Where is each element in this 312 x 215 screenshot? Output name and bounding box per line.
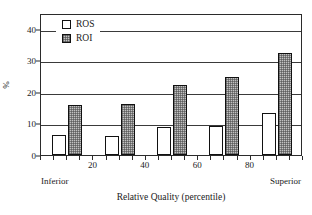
bar-roi-70 (225, 77, 239, 155)
x-tick-label: 40 (140, 161, 149, 170)
legend-label-ros: ROS (76, 20, 94, 30)
legend-item-ros[interactable]: ROS (62, 20, 94, 30)
bar-ros-90 (262, 113, 276, 155)
x-tick-mark (276, 156, 277, 160)
x-tick-mark (66, 156, 67, 160)
bar-ros-50 (157, 127, 171, 155)
x-tick-mark (106, 156, 107, 160)
x-tick-mark (132, 156, 133, 160)
bar-roi-30 (121, 104, 135, 155)
bar-ros-10 (52, 135, 66, 155)
x-tick-mark (40, 156, 41, 160)
legend-label-roi: ROI (76, 34, 92, 44)
x-tick-mark (263, 156, 264, 160)
x-axis-title: Relative Quality (percentile) (40, 192, 302, 202)
x-tick-mark (171, 156, 172, 160)
x-tick-mark (289, 156, 290, 160)
x-tick-mark (184, 156, 185, 160)
x-tick-mark (158, 156, 159, 160)
y-axis: % 010203040 (0, 14, 40, 156)
x-tick-mark (119, 156, 120, 160)
bar-chart: % 010203040 ROS ROI 20406080 Inferior Su… (0, 0, 312, 215)
x-tick-mark (79, 156, 80, 160)
bar-roi-90 (278, 53, 292, 155)
y-tick-label: 10 (27, 120, 36, 129)
x-tick-label: 80 (245, 161, 254, 170)
x-axis: 20406080 Inferior Superior (40, 156, 302, 176)
x-axis-left-end-label: Inferior (41, 176, 68, 186)
x-axis-right-end-label: Superior (270, 176, 301, 186)
x-tick-mark (53, 156, 54, 160)
y-tick-label: 30 (27, 57, 36, 66)
bar-ros-70 (209, 126, 223, 155)
bar-roi-50 (173, 85, 187, 155)
legend-item-roi[interactable]: ROI (62, 34, 94, 44)
y-axis-label: % (1, 81, 11, 89)
x-tick-label: 60 (193, 161, 202, 170)
x-tick-mark (210, 156, 211, 160)
x-tick-mark (223, 156, 224, 160)
legend-swatch-ros-icon (62, 20, 71, 29)
x-tick-mark (237, 156, 238, 160)
y-tick-label: 20 (27, 88, 36, 97)
bar-roi-10 (68, 105, 82, 155)
x-tick-label: 20 (88, 161, 97, 170)
x-tick-mark (302, 156, 303, 160)
bar-ros-30 (105, 136, 119, 155)
legend: ROS ROI (62, 20, 94, 43)
legend-swatch-roi-icon (62, 34, 71, 43)
y-tick-label: 40 (27, 25, 36, 34)
